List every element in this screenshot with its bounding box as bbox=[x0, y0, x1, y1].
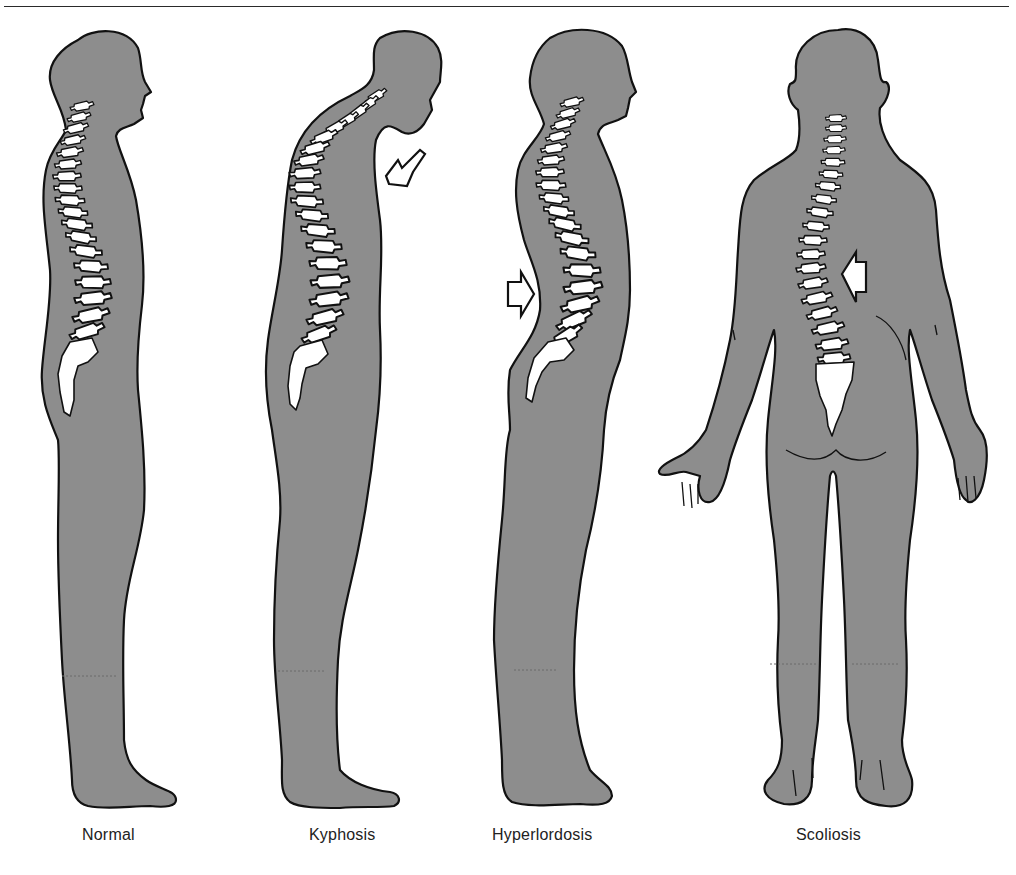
label-scoliosis: Scoliosis bbox=[796, 826, 861, 844]
arrow-icon-hyperlordosis bbox=[508, 272, 534, 316]
label-normal: Normal bbox=[82, 826, 135, 844]
spine-curvature-diagram bbox=[0, 0, 1016, 875]
label-hyperlordosis: Hyperlordosis bbox=[492, 826, 592, 844]
body-silhouette-normal bbox=[42, 31, 176, 808]
body-silhouette-scoliosis bbox=[659, 29, 987, 806]
body-silhouette-kyphosis bbox=[266, 31, 441, 808]
label-kyphosis: Kyphosis bbox=[309, 826, 376, 844]
figure-kyphosis bbox=[266, 31, 441, 808]
figure-scoliosis bbox=[659, 29, 987, 806]
figure-hyperlordosis bbox=[494, 30, 636, 805]
arrow-icon-kyphosis bbox=[386, 150, 425, 186]
figure-normal bbox=[42, 31, 176, 808]
left-fingers bbox=[682, 482, 698, 508]
